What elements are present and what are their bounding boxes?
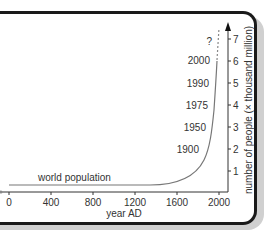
x-tick-label: 1600 — [166, 197, 189, 208]
y-axis-arrow-icon — [225, 22, 231, 31]
y-tick-label: 3 — [233, 122, 239, 133]
y-tick-label: 1 — [233, 166, 239, 177]
x-tick-label: 800 — [85, 197, 102, 208]
x-tick-labels: 0 400 800 1200 1600 2000 — [6, 197, 230, 208]
x-axis-title: year AD — [106, 208, 142, 219]
y-tick-label: 5 — [233, 78, 239, 89]
x-tick-label: 0 — [6, 197, 12, 208]
y-tick-label: 6 — [233, 56, 239, 67]
series-label: world population — [37, 172, 111, 183]
year-marker-1950: 1950 — [184, 122, 207, 133]
y-tick-label: 7 — [233, 34, 239, 45]
year-marker-1900: 1900 — [177, 144, 200, 155]
x-tick-label: 2000 — [208, 197, 231, 208]
y-tick-label: 4 — [233, 100, 239, 111]
year-marker-2000: 2000 — [188, 55, 211, 66]
question-mark-label: ? — [206, 36, 212, 47]
y-tick-label: 2 — [233, 144, 239, 155]
x-tick-label: 400 — [43, 197, 60, 208]
year-marker-1975: 1975 — [186, 100, 209, 111]
year-marker-1990: 1990 — [187, 78, 210, 89]
projection-dashed-line — [217, 28, 219, 60]
y-tick-labels: 1 2 3 4 5 6 7 — [233, 34, 239, 177]
population-chart: 0 400 800 1200 1600 2000 year AD 1 2 3 4… — [0, 0, 270, 238]
y-axis-title: number of people (× thousand million) — [243, 26, 254, 194]
x-axis-start-marker — [0, 191, 3, 194]
x-tick-label: 1200 — [124, 197, 147, 208]
